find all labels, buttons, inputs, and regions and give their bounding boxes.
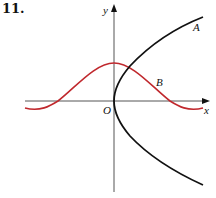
x-axis-label: x (203, 104, 209, 116)
curve-a-label: A (192, 21, 200, 33)
y-axis-label: y (102, 4, 108, 16)
origin-label: O (103, 104, 111, 116)
y-axis-arrow-icon (111, 4, 117, 12)
graph: y x O A B (0, 0, 216, 198)
curve-b-label: B (156, 76, 163, 88)
